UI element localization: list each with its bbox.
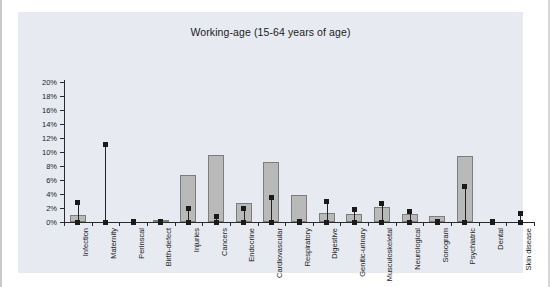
x-label-sonogram: Sonogram bbox=[441, 228, 450, 263]
x-tick bbox=[147, 222, 148, 226]
bar-cancers bbox=[208, 155, 224, 222]
x-tick bbox=[202, 222, 203, 226]
x-tick bbox=[479, 222, 480, 226]
x-label-musculoskeletal: Musculoskeletal bbox=[385, 228, 394, 281]
marker-baseline bbox=[352, 220, 357, 225]
marker-baseline bbox=[518, 220, 523, 225]
x-label-psychiatric: Psychiatric bbox=[468, 228, 477, 264]
x-tick bbox=[534, 222, 535, 226]
marker-cancers bbox=[214, 214, 219, 219]
x-label-maternity: Maternity bbox=[109, 228, 118, 259]
marker-neurological bbox=[407, 209, 412, 214]
marker-baseline bbox=[324, 220, 329, 225]
y-tick-label: 0% bbox=[23, 218, 57, 227]
marker-baseline bbox=[158, 220, 163, 225]
marker-stem bbox=[465, 186, 466, 222]
marker-injuries bbox=[186, 206, 191, 211]
plot-area: 0%2%4%6%8%10%12%14%16%18%20% InfectionMa… bbox=[18, 12, 523, 273]
marker-baseline bbox=[103, 220, 108, 225]
x-tick bbox=[64, 222, 65, 226]
x-label-birth-defect: Birth-defect bbox=[164, 228, 173, 266]
marker-psychiatric bbox=[462, 184, 467, 189]
y-tick-label: 2% bbox=[23, 204, 57, 213]
marker-baseline bbox=[269, 220, 274, 225]
y-tick-label: 10% bbox=[23, 148, 57, 157]
x-tick bbox=[119, 222, 120, 226]
marker-baseline bbox=[297, 220, 302, 225]
y-tick bbox=[60, 124, 65, 125]
marker-baseline bbox=[75, 220, 80, 225]
y-tick bbox=[60, 180, 65, 181]
x-tick bbox=[258, 222, 259, 226]
y-tick bbox=[60, 138, 65, 139]
y-tick-label: 20% bbox=[23, 78, 57, 87]
y-tick bbox=[60, 110, 65, 111]
marker-baseline bbox=[462, 220, 467, 225]
marker-baseline bbox=[241, 220, 246, 225]
x-tick bbox=[92, 222, 93, 226]
marker-cardiovascular bbox=[269, 195, 274, 200]
y-tick bbox=[60, 194, 65, 195]
x-label-skin-disease: Skin disease bbox=[524, 228, 533, 271]
chart-panel: Working-age (15-64 years of age) 0%2%4%6… bbox=[18, 12, 523, 273]
x-tick bbox=[340, 222, 341, 226]
marker-baseline bbox=[490, 220, 495, 225]
marker-musculoskeletal bbox=[379, 201, 384, 206]
marker-skin-disease bbox=[518, 211, 523, 216]
y-tick bbox=[60, 208, 65, 209]
x-tick bbox=[285, 222, 286, 226]
y-tick-label: 18% bbox=[23, 92, 57, 101]
x-label-cardiovascular: Cardiovascular bbox=[275, 228, 284, 278]
chart-page: Working-age (15-64 years of age) 0%2%4%6… bbox=[0, 0, 550, 287]
y-tick-label: 12% bbox=[23, 134, 57, 143]
x-label-digestive: Digestive bbox=[330, 228, 339, 259]
x-tick bbox=[313, 222, 314, 226]
y-tick-label: 8% bbox=[23, 162, 57, 171]
x-label-genitic-urinary: Genitic-urinary bbox=[358, 228, 367, 277]
marker-baseline bbox=[379, 220, 384, 225]
x-label-infection: Infection bbox=[81, 228, 90, 256]
y-tick-label: 4% bbox=[23, 190, 57, 199]
x-label-endocrine: Endocrine bbox=[247, 228, 256, 262]
marker-maternity bbox=[103, 142, 108, 147]
x-label-perinscal: Perinscal bbox=[137, 228, 146, 259]
x-tick bbox=[423, 222, 424, 226]
marker-baseline bbox=[214, 220, 219, 225]
x-label-respiratory: Respiratory bbox=[303, 228, 312, 266]
x-tick bbox=[451, 222, 452, 226]
marker-stem bbox=[105, 144, 106, 222]
y-tick-label: 14% bbox=[23, 120, 57, 129]
marker-stem bbox=[271, 198, 272, 223]
marker-baseline bbox=[407, 220, 412, 225]
x-tick bbox=[396, 222, 397, 226]
x-tick bbox=[506, 222, 507, 226]
x-label-cancers: Cancers bbox=[220, 228, 229, 256]
x-label-neurological: Neurological bbox=[413, 228, 422, 270]
y-tick-label: 6% bbox=[23, 176, 57, 185]
marker-baseline bbox=[435, 220, 440, 225]
marker-genitic-urinary bbox=[352, 207, 357, 212]
marker-baseline bbox=[131, 220, 136, 225]
x-tick bbox=[175, 222, 176, 226]
y-tick-label: 16% bbox=[23, 106, 57, 115]
x-label-dental: Dental bbox=[496, 228, 505, 250]
y-tick bbox=[60, 166, 65, 167]
marker-digestive bbox=[324, 199, 329, 204]
x-label-injuries: Injuries bbox=[192, 228, 201, 252]
page-left-edge-rule bbox=[0, 0, 2, 287]
x-tick bbox=[368, 222, 369, 226]
y-tick bbox=[60, 82, 65, 83]
y-tick bbox=[60, 152, 65, 153]
x-tick bbox=[230, 222, 231, 226]
marker-endocrine bbox=[241, 206, 246, 211]
y-tick bbox=[60, 96, 65, 97]
marker-infection bbox=[75, 200, 80, 205]
marker-baseline bbox=[186, 220, 191, 225]
